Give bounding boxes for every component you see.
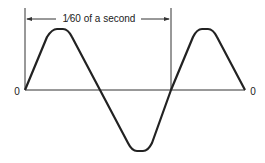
period-label: 1⁄60 of a second: [63, 13, 136, 24]
origin-label-right: 0: [250, 86, 256, 97]
sine-wave-diagram: 1⁄60 of a second 0 0: [0, 0, 265, 163]
origin-label-left: 0: [14, 86, 20, 97]
